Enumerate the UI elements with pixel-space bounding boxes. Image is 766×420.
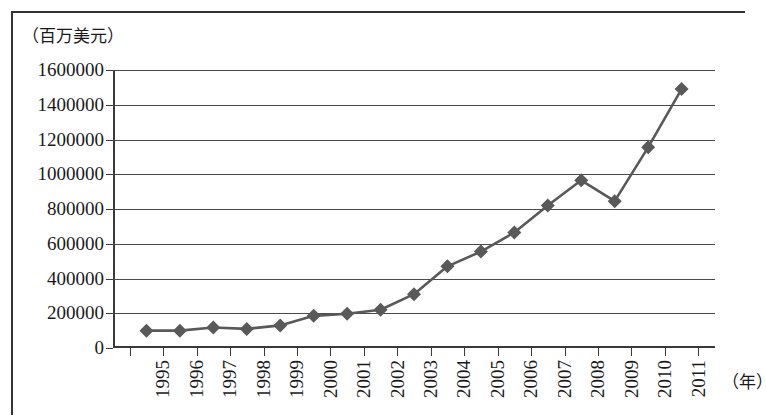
- x-axis-tick-label: 2008: [588, 360, 607, 398]
- x-axis-tick-label: 2009: [622, 360, 641, 398]
- y-axis-tick-mark: [106, 174, 113, 175]
- x-axis-tick-label: 1996: [187, 360, 206, 398]
- y-axis-tick-mark: [106, 105, 113, 106]
- x-axis-tick-label: 2006: [521, 360, 540, 398]
- y-axis-tick-label: 800000: [47, 199, 104, 218]
- y-axis-tick-label: 200000: [47, 303, 104, 322]
- x-axis-tick-label: 1999: [287, 360, 306, 398]
- y-axis-tick-mark: [106, 209, 113, 210]
- x-axis-tick-label: 2004: [454, 360, 473, 398]
- data-point-marker: [173, 324, 187, 338]
- y-axis-tick-mark: [106, 244, 113, 245]
- x-axis-tick-label: 2005: [488, 360, 507, 398]
- x-axis-tick-label: 2002: [388, 360, 407, 398]
- x-axis-tick-label: 2011: [689, 360, 708, 397]
- y-axis-tick-mark: [106, 70, 113, 71]
- x-axis-tick-mark: [264, 348, 265, 356]
- x-axis-tick-mark: [464, 348, 465, 356]
- y-axis-tick-label: 1600000: [38, 60, 105, 79]
- x-axis-tick-mark: [431, 348, 432, 356]
- y-axis-unit-label: （百万美元）: [22, 22, 124, 47]
- y-axis-tick-label: 1000000: [38, 164, 105, 183]
- plot-area: [113, 70, 715, 348]
- x-axis-tick-label: 2000: [321, 360, 340, 398]
- data-point-marker: [474, 245, 488, 259]
- x-axis-tick-label-group: 1995199619971998199920002001200220032004…: [113, 360, 715, 420]
- x-axis-tick-mark: [397, 348, 398, 356]
- data-point-marker: [206, 320, 220, 334]
- x-axis-tick-label: 2003: [421, 360, 440, 398]
- data-point-marker: [307, 309, 321, 323]
- x-axis-tick-mark: [665, 348, 666, 356]
- x-axis-tick-mark: [230, 348, 231, 356]
- y-axis-tick-mark: [106, 279, 113, 280]
- data-series-line: [113, 70, 715, 348]
- x-axis-name-label: （年）: [722, 368, 766, 393]
- x-axis-tick-mark: [598, 348, 599, 356]
- x-axis-tick-mark: [498, 348, 499, 356]
- x-axis-tick-mark: [565, 348, 566, 356]
- data-point-marker: [675, 82, 689, 96]
- x-axis-tick-mark: [364, 348, 365, 356]
- x-axis-tick-mark: [698, 348, 699, 356]
- y-axis-tick-mark: [106, 140, 113, 141]
- x-axis-tick-label: 1998: [254, 360, 273, 398]
- data-point-marker: [139, 324, 153, 338]
- y-axis-tick-label: 400000: [47, 269, 104, 288]
- x-axis-tick-mark: [531, 348, 532, 356]
- data-point-marker: [273, 318, 287, 332]
- y-axis-tick-label: 1200000: [38, 130, 105, 149]
- data-point-marker: [608, 194, 622, 208]
- data-point-marker: [374, 303, 388, 317]
- x-axis-tick-label: 1997: [220, 360, 239, 398]
- y-axis-tick-mark: [106, 348, 113, 349]
- x-axis-tick-label: 2010: [655, 360, 674, 398]
- data-point-marker: [340, 307, 354, 321]
- x-axis-tick-mark: [130, 348, 131, 356]
- data-point-marker: [240, 322, 254, 336]
- y-axis-tick-label: 0: [95, 338, 105, 357]
- y-axis-tick-label-group: 0200000400000600000800000100000012000001…: [0, 70, 104, 348]
- y-axis-tick-label: 1400000: [38, 95, 105, 114]
- x-axis-tick-mark: [631, 348, 632, 356]
- x-axis-tick-label: 2001: [354, 360, 373, 398]
- x-axis-tick-mark: [297, 348, 298, 356]
- data-point-marker: [641, 140, 655, 154]
- x-axis-tick-label: 1995: [153, 360, 172, 398]
- x-axis-tick-label: 2007: [555, 360, 574, 398]
- x-axis-tick-mark: [330, 348, 331, 356]
- y-axis-tick-mark: [106, 313, 113, 314]
- x-axis-tick-mark: [197, 348, 198, 356]
- y-axis-tick-label: 600000: [47, 234, 104, 253]
- x-axis-tick-mark: [163, 348, 164, 356]
